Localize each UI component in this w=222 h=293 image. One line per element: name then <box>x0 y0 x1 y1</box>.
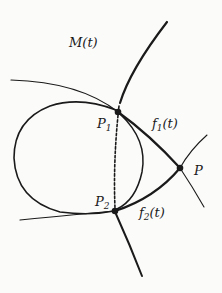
point-p2 <box>112 208 119 215</box>
diagram-svg <box>0 0 222 293</box>
dotted-chord <box>115 106 120 208</box>
label-f1: f1(t) <box>152 117 178 133</box>
label-p2: P2 <box>95 195 109 211</box>
point-p1 <box>115 109 122 116</box>
label-f2: f2(t) <box>139 206 165 222</box>
label-p: P <box>194 164 203 177</box>
curve-m-lower <box>116 214 142 276</box>
diagram-canvas: M(t) P1 f1(t) P P2 f2(t) <box>0 0 222 293</box>
thin-arc-top <box>11 80 118 112</box>
curve-m-upper <box>120 22 167 103</box>
point-p <box>177 165 184 172</box>
label-p1: P1 <box>97 117 111 133</box>
label-m-t: M(t) <box>69 36 98 49</box>
